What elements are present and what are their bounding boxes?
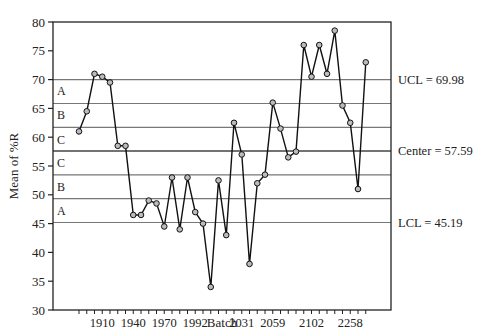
data-point bbox=[177, 227, 183, 233]
data-point bbox=[154, 201, 160, 207]
data-point bbox=[138, 212, 144, 218]
data-point bbox=[301, 42, 307, 48]
data-point bbox=[285, 155, 291, 161]
data-point bbox=[270, 100, 276, 106]
zone-label: A bbox=[57, 204, 66, 218]
control-chart: ABCCBA 3035404550556065707580 1910194019… bbox=[0, 0, 481, 332]
data-point bbox=[324, 71, 330, 77]
data-series bbox=[76, 28, 368, 290]
control-line-labels: UCL = 69.98Center = 57.59LCL = 45.19 bbox=[398, 73, 473, 230]
y-tick-label: 30 bbox=[32, 303, 45, 318]
series-line bbox=[79, 31, 366, 287]
data-point bbox=[247, 261, 253, 267]
y-tick-label: 70 bbox=[32, 72, 45, 87]
data-point bbox=[115, 143, 121, 149]
data-point bbox=[347, 120, 353, 126]
x-tick-label: 1940 bbox=[121, 316, 146, 330]
data-point bbox=[355, 186, 361, 192]
y-axis-label: Mean of %R bbox=[6, 132, 21, 199]
zone-label: B bbox=[57, 108, 65, 122]
data-point bbox=[208, 284, 214, 290]
data-point bbox=[340, 103, 346, 109]
zone-label: B bbox=[57, 180, 65, 194]
x-tick-label: 1970 bbox=[152, 316, 177, 330]
data-point bbox=[200, 221, 206, 227]
y-tick-label: 45 bbox=[32, 216, 45, 231]
y-tick-label: 40 bbox=[32, 245, 45, 260]
data-point bbox=[316, 42, 322, 48]
y-tick-label: 65 bbox=[32, 101, 45, 116]
data-point bbox=[76, 129, 82, 135]
x-tick-label: 2102 bbox=[299, 316, 324, 330]
ucl-label: UCL = 69.98 bbox=[398, 73, 464, 87]
zone-label: C bbox=[57, 133, 65, 147]
data-point bbox=[84, 108, 90, 114]
data-point bbox=[216, 178, 222, 184]
data-point bbox=[99, 74, 105, 80]
y-axis: 3035404550556065707580 bbox=[32, 15, 53, 318]
y-tick-label: 55 bbox=[32, 159, 45, 174]
data-point bbox=[192, 209, 198, 215]
x-tick-label: 2258 bbox=[338, 316, 363, 330]
y-tick-label: 50 bbox=[32, 187, 45, 202]
data-point bbox=[130, 212, 136, 218]
zone-label: C bbox=[57, 156, 65, 170]
data-point bbox=[185, 175, 191, 181]
data-point bbox=[107, 80, 113, 86]
data-point bbox=[332, 28, 338, 34]
data-point bbox=[169, 175, 175, 181]
plot-frame bbox=[53, 22, 391, 310]
data-point bbox=[239, 152, 245, 158]
zone-label: A bbox=[57, 84, 66, 98]
data-point bbox=[161, 224, 167, 230]
y-tick-label: 35 bbox=[32, 274, 45, 289]
data-point bbox=[223, 232, 229, 238]
x-tick-label: 1992 bbox=[183, 316, 208, 330]
x-tick-label: 2059 bbox=[260, 316, 285, 330]
y-tick-label: 60 bbox=[32, 130, 45, 145]
data-point bbox=[254, 180, 260, 186]
data-point bbox=[231, 120, 237, 126]
x-tick-label: 1910 bbox=[90, 316, 115, 330]
y-tick-label: 75 bbox=[32, 43, 45, 58]
y-tick-label: 80 bbox=[32, 15, 45, 30]
data-point bbox=[262, 172, 268, 178]
data-point bbox=[278, 126, 284, 132]
data-point bbox=[293, 149, 299, 155]
data-point bbox=[123, 143, 129, 149]
center-label: Center = 57.59 bbox=[398, 144, 473, 158]
data-point bbox=[146, 198, 152, 204]
data-point bbox=[309, 74, 315, 80]
x-axis-label: Batch bbox=[207, 315, 238, 330]
data-point bbox=[363, 60, 369, 66]
lcl-label: LCL = 45.19 bbox=[398, 216, 463, 230]
data-point bbox=[92, 71, 98, 77]
